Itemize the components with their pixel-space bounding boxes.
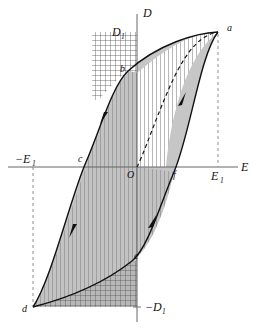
point-label-c: c (78, 153, 83, 164)
axis-label-D: D (142, 6, 152, 20)
svg-text:1: 1 (162, 307, 166, 316)
svg-text:−: − (145, 300, 153, 314)
axis-tick-label-D1: D 1 (111, 25, 125, 41)
point-label-e: e (134, 250, 139, 261)
axis-label-E: E (240, 160, 249, 174)
point-label-d: d (22, 303, 28, 314)
axis-tick-label-minus-D1: − D 1 (145, 300, 166, 316)
svg-text:1: 1 (32, 159, 36, 168)
origin-label-O: O (127, 169, 134, 180)
hysteresis-figure: D D 1 − D 1 E E 1 − E 1 O a b c d (0, 0, 261, 332)
point-label-a: a (227, 22, 232, 33)
svg-text:D: D (152, 300, 162, 314)
svg-text:E: E (22, 152, 31, 166)
svg-text:−: − (15, 152, 23, 166)
hysteresis-diagram: D D 1 − D 1 E E 1 − E 1 O a b c d (0, 0, 261, 332)
axis-tick-label-minus-E1: − E 1 (15, 152, 36, 168)
lower-right-hatch-region (132, 167, 174, 261)
svg-text:E: E (210, 169, 219, 183)
svg-text:1: 1 (220, 176, 224, 185)
svg-text:1: 1 (121, 32, 125, 41)
point-label-b: b (120, 63, 125, 74)
axis-tick-label-E1: E 1 (210, 169, 224, 185)
point-label-f: f (173, 169, 177, 180)
svg-text:D: D (111, 25, 121, 39)
